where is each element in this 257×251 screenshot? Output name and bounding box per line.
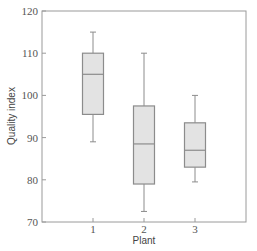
box-plant-3 <box>185 95 206 182</box>
x-axis-label: Plant <box>133 235 156 246</box>
y-tick-label: 100 <box>22 89 39 101</box>
y-tick-label: 110 <box>22 47 39 59</box>
iqr-box <box>134 106 155 184</box>
box-plant-2 <box>134 53 155 211</box>
box-plant-1 <box>83 32 104 142</box>
x-tick-label: 2 <box>141 223 147 235</box>
y-tick-label: 120 <box>22 5 39 17</box>
y-tick-label: 70 <box>27 216 39 228</box>
box-plot-chart: 708090100110120 123 Plant Quality index <box>0 0 257 251</box>
boxes <box>83 32 206 211</box>
x-tick-label: 1 <box>90 223 96 235</box>
y-axis-label: Quality index <box>6 87 17 145</box>
y-tick-label: 90 <box>27 132 39 144</box>
x-axis: 123 <box>90 218 198 235</box>
iqr-box <box>83 53 104 114</box>
y-tick-label: 80 <box>27 174 39 186</box>
iqr-box <box>185 123 206 167</box>
x-tick-label: 3 <box>192 223 198 235</box>
